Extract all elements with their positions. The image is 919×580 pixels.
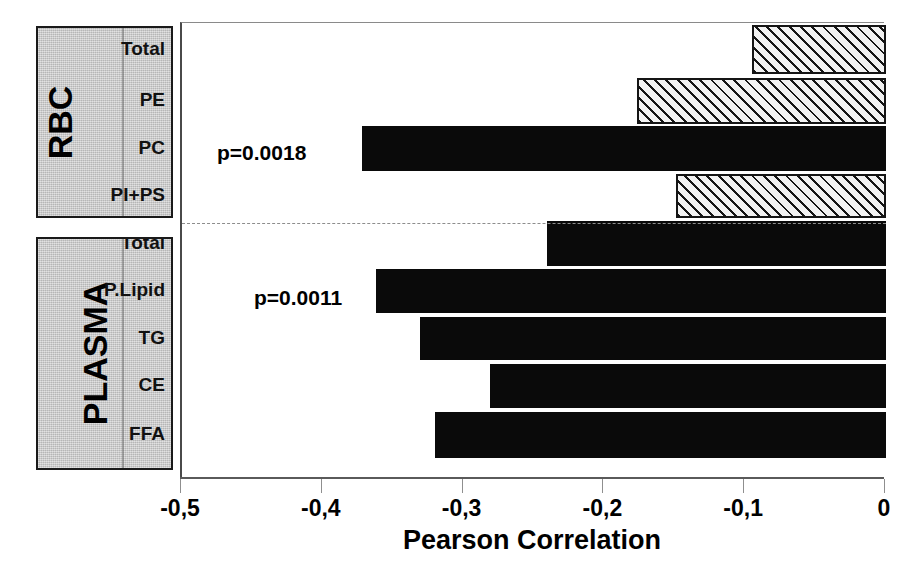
x-tick-4 <box>743 479 744 493</box>
x-tick-label-0: -0,5 <box>160 495 200 522</box>
category-label-plasma-tg: TG <box>139 328 165 347</box>
x-tick-label-3: -0,2 <box>583 495 623 522</box>
x-tick-5 <box>884 479 885 493</box>
group-title-rbc-text: RBC <box>41 85 80 159</box>
bar-rbc-total <box>752 25 886 74</box>
x-axis-label: Pearson Correlation <box>180 525 884 556</box>
x-tick-1 <box>321 479 322 493</box>
bar-plasma-tg <box>420 317 886 360</box>
x-axis-line <box>180 477 884 479</box>
bar-plasma-ce <box>490 364 886 408</box>
category-label-rbc-total: Total <box>121 39 165 58</box>
category-label-rbc-pips: PI+PS <box>111 185 165 204</box>
annotation-p-value-rbc-pc: p=0.0018 <box>217 141 306 165</box>
x-tick-label-5: 0 <box>878 495 891 522</box>
x-tick-label-1: -0,4 <box>301 495 341 522</box>
category-label-plasma-ce: CE <box>139 375 165 394</box>
group-box-seam <box>122 239 124 468</box>
group-box-plasma: PLASMA Total P.Lipid TG CE FFA <box>36 237 173 470</box>
x-tick-2 <box>462 479 463 493</box>
x-tick-3 <box>602 479 603 493</box>
plot-area: p=0.0018 p=0.0011 <box>180 22 884 477</box>
bar-plasma-plipid <box>376 269 886 313</box>
category-label-plasma-total: Total <box>121 237 165 252</box>
annotation-p-value-plasma-plipid: p=0.0011 <box>254 286 342 310</box>
group-title-plasma-text: PLASMA <box>76 282 115 426</box>
chart-figure: RBC Total PE PC PI+PS PLASMA Total P.Lip… <box>0 0 919 580</box>
bar-rbc-pc <box>362 126 886 171</box>
bar-plasma-total <box>547 221 886 266</box>
category-label-plasma-plipid: P.Lipid <box>104 280 165 299</box>
bar-rbc-pe <box>637 78 886 124</box>
category-label-plasma-ffa: FFA <box>129 424 165 443</box>
x-tick-0 <box>180 479 181 493</box>
bar-rbc-pips <box>676 174 886 218</box>
group-box-rbc: RBC Total PE PC PI+PS <box>36 26 173 218</box>
group-separator <box>182 223 886 224</box>
x-tick-label-4: -0,1 <box>723 495 763 522</box>
category-label-rbc-pc: PC <box>139 138 165 157</box>
category-label-rbc-pe: PE <box>140 90 165 109</box>
x-tick-label-2: -0,3 <box>442 495 482 522</box>
bar-plasma-ffa <box>435 412 886 458</box>
